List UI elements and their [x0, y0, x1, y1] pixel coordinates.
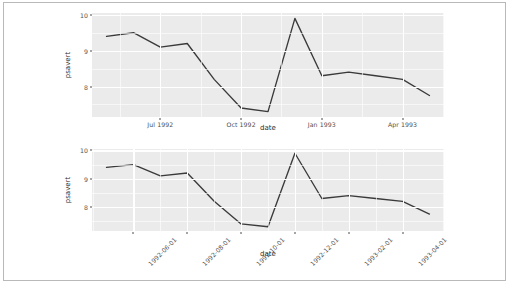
y-tick-label: 9: [78, 175, 88, 182]
y-tick-mark: [90, 150, 92, 151]
gridline-vertical: [403, 13, 404, 117]
gridline-vertical: [133, 149, 134, 231]
gridline-horizontal-minor: [92, 69, 444, 70]
gridline-vertical: [160, 13, 161, 117]
gridline-vertical-minor: [214, 149, 215, 231]
x-tick-label: 1992-12-01: [309, 236, 340, 267]
x-tick-mark: [241, 118, 242, 120]
plot-panel-bottom: [92, 149, 444, 231]
x-tick-mark: [241, 232, 242, 234]
y-tick-mark: [90, 86, 92, 87]
y-tick-mark: [90, 178, 92, 179]
x-tick-mark: [160, 118, 161, 120]
gridline-vertical: [295, 149, 296, 231]
gridline-vertical-minor: [93, 149, 94, 231]
gridline-vertical-minor: [322, 149, 323, 231]
x-tick-label: Jul 1992: [147, 121, 173, 128]
gridline-vertical-minor: [362, 13, 363, 117]
gridline-vertical-minor: [201, 13, 202, 117]
x-tick-mark: [402, 232, 403, 234]
gridline-vertical-minor: [281, 13, 282, 117]
gridline-vertical: [322, 13, 323, 117]
x-tick-label: Apr 1993: [388, 121, 417, 128]
y-tick-mark: [90, 206, 92, 207]
gridline-vertical: [349, 149, 350, 231]
gridline-horizontal: [92, 51, 444, 52]
gridline-vertical-minor: [376, 149, 377, 231]
y-tick-label: 8: [78, 203, 88, 210]
x-tick-label: 1993-02-01: [363, 236, 394, 267]
screenshot-root: 8910Jul 1992Oct 1992Jan 1993Apr 1993 dat…: [0, 0, 509, 284]
y-tick-label: 10: [78, 147, 88, 154]
x-tick-label: 1992-06-01: [147, 236, 178, 267]
gridline-vertical-minor: [443, 13, 444, 117]
chart-top: 8910Jul 1992Oct 1992Jan 1993Apr 1993 dat…: [4, 4, 504, 140]
gridline-horizontal: [92, 15, 444, 16]
y-axis-title: psavert: [64, 177, 72, 203]
y-axis-title: psavert: [64, 52, 72, 78]
y-tick-mark: [90, 50, 92, 51]
gridline-vertical: [241, 149, 242, 231]
gridline-horizontal-minor: [92, 104, 444, 105]
gridline-vertical-minor: [160, 149, 161, 231]
x-tick-mark: [133, 232, 134, 234]
y-tick-label: 9: [78, 47, 88, 54]
gridline-horizontal-minor: [92, 33, 444, 34]
x-tick-mark: [321, 118, 322, 120]
plot-panel-top: [92, 13, 444, 117]
x-tick-label: 1993-04-01: [416, 236, 447, 267]
x-axis-title: date: [260, 124, 276, 132]
x-tick-label: Jan 1993: [308, 121, 336, 128]
gridline-vertical-minor: [268, 149, 269, 231]
gridline-vertical: [187, 149, 188, 231]
data-line-top: [92, 13, 444, 117]
x-axis-title: date: [260, 250, 276, 258]
x-tick-mark: [187, 232, 188, 234]
x-tick-mark: [402, 118, 403, 120]
x-tick-label: 1992-08-01: [201, 236, 232, 267]
gridline-horizontal: [92, 87, 444, 88]
gridline-vertical: [403, 149, 404, 231]
x-tick-label: Oct 1992: [226, 121, 255, 128]
gridline-vertical: [241, 13, 242, 117]
x-tick-mark: [348, 232, 349, 234]
gridline-vertical-minor: [120, 13, 121, 117]
y-tick-mark: [90, 14, 92, 15]
gridline-vertical-minor: [443, 149, 444, 231]
figure-border: 8910Jul 1992Oct 1992Jan 1993Apr 1993 dat…: [3, 2, 506, 281]
y-tick-label: 8: [78, 83, 88, 90]
x-tick-mark: [294, 232, 295, 234]
chart-bottom: 89101992-06-011992-08-011992-10-011992-1…: [4, 140, 504, 280]
y-tick-label: 10: [78, 11, 88, 18]
